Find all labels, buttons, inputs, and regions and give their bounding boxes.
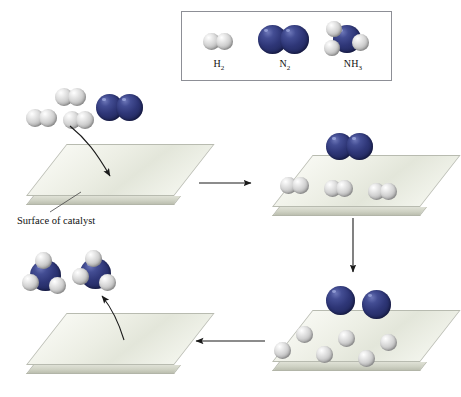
hydrogen-atom: [49, 277, 66, 294]
hydrogen-atom: [35, 252, 52, 269]
surface-label-leader: [50, 192, 81, 212]
hydrogen-atom: [72, 268, 89, 285]
desorption-arrow: [102, 296, 124, 340]
surface-of-catalyst-label: Surface of catalyst: [17, 215, 95, 226]
hydrogen-atom: [22, 274, 39, 291]
adsorption-arrow: [70, 126, 110, 176]
hydrogen-atom: [85, 250, 102, 267]
hydrogen-atom: [326, 21, 342, 37]
hydrogen-atom: [324, 40, 340, 56]
hydrogen-atom: [352, 34, 369, 51]
hydrogen-atom: [99, 274, 116, 291]
